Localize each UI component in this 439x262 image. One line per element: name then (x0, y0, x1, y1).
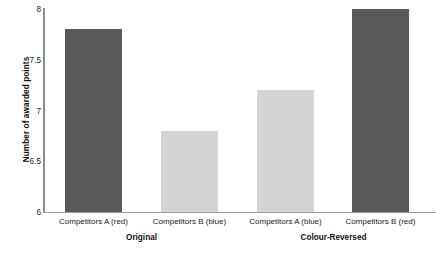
bar-chart: Number of awarded points 8 7.5 7 6.5 6 C… (0, 0, 439, 262)
bar-competitors-a-red (65, 29, 122, 212)
bars-layer (0, 0, 439, 212)
bar-competitors-b-blue (161, 131, 218, 212)
bar-competitors-a-blue (257, 90, 314, 212)
category-label-competitors-b-blue: Competitors B (blue) (140, 217, 239, 226)
category-label-competitors-a-blue: Competitors A (blue) (236, 217, 335, 226)
group-label-colour-reversed: Colour-Reversed (284, 233, 383, 242)
category-label-competitors-b-red: Competitors B (red) (331, 217, 430, 226)
bar-competitors-b-red (352, 9, 409, 212)
x-axis-line (43, 212, 436, 213)
group-label-original: Original (92, 233, 191, 242)
category-label-competitors-a-red: Competitors A (red) (44, 217, 143, 226)
